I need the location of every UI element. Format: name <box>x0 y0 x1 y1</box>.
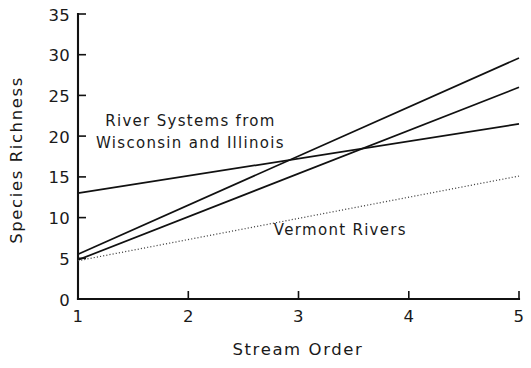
x-tick-label-2: 2 <box>183 307 194 326</box>
annotation-0-line-1: River Systems from <box>105 112 275 130</box>
y-tick-label-15: 15 <box>48 168 70 187</box>
y-tick-label-5: 5 <box>59 250 70 269</box>
y-tick-label-20: 20 <box>48 128 70 147</box>
y-axis-ticks <box>78 14 86 299</box>
series-line-3 <box>78 176 519 261</box>
chart-figure: 0 5 10 15 20 25 30 35 Species Richness <box>0 0 531 368</box>
annotation-wisconsin-illinois: River Systems from Wisconsin and Illinoi… <box>96 112 285 152</box>
y-tick-label-10: 10 <box>48 209 70 228</box>
y-tick-label-35: 35 <box>48 6 70 25</box>
x-axis-tick-labels: 1 2 3 4 5 <box>73 307 525 326</box>
species-richness-line-chart: 0 5 10 15 20 25 30 35 Species Richness <box>0 0 531 368</box>
y-tick-label-30: 30 <box>48 46 70 65</box>
y-tick-label-0: 0 <box>59 291 70 310</box>
x-tick-label-1: 1 <box>73 307 84 326</box>
annotation-vermont-rivers: Vermont Rivers <box>274 221 407 239</box>
annotation-0-line-2: Wisconsin and Illinois <box>96 134 285 152</box>
x-axis-ticks <box>78 291 519 299</box>
y-axis-title: Species Richness <box>7 76 26 244</box>
x-tick-label-3: 3 <box>293 307 304 326</box>
x-tick-label-5: 5 <box>514 307 525 326</box>
y-axis-tick-labels: 0 5 10 15 20 25 30 35 <box>48 6 70 310</box>
y-tick-label-25: 25 <box>48 87 70 106</box>
x-tick-label-4: 4 <box>403 307 414 326</box>
y-axis: 0 5 10 15 20 25 30 35 Species Richness <box>7 6 86 310</box>
x-axis-title: Stream Order <box>232 340 363 359</box>
annotation-1-line-1: Vermont Rivers <box>274 221 407 239</box>
x-axis: 1 2 3 4 5 Stream Order <box>73 291 525 359</box>
